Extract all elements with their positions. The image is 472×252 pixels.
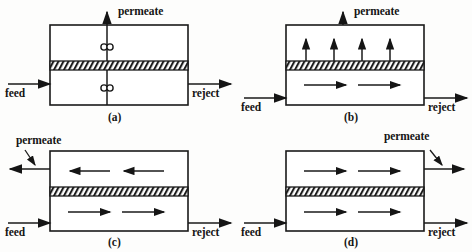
- membrane-layer: [286, 61, 424, 70]
- reject-label: reject: [428, 227, 455, 239]
- permeate-label: permeate: [118, 6, 163, 18]
- membrane-layer: [286, 187, 424, 196]
- membrane-layer: [50, 187, 188, 196]
- permeate-leader-arrow: [25, 150, 35, 165]
- panel-d-co-current: permeate feed reject (d): [236, 126, 472, 252]
- permeate-label: permeate: [16, 135, 61, 147]
- feed-label: feed: [5, 227, 25, 239]
- reject-label: reject: [192, 88, 219, 100]
- reject-label: reject: [192, 227, 219, 239]
- membrane-layer: [50, 61, 188, 70]
- reject-label: reject: [428, 102, 455, 114]
- panel-id-b: (b): [344, 111, 358, 123]
- panel-id-c: (c): [108, 236, 121, 248]
- panel-id-d: (d): [344, 236, 358, 248]
- valve-symbol-lower: [101, 85, 113, 91]
- feed-label: feed: [5, 88, 25, 100]
- panel-a-dead-end: permeate feed reject (a): [0, 0, 236, 126]
- feed-label: feed: [241, 227, 261, 239]
- panel-c-counter-current: permeate feed reject (c): [0, 126, 236, 252]
- valve-symbol-upper: [101, 44, 113, 50]
- feed-label: feed: [241, 102, 261, 114]
- panel-b-cross-flow: permeate feed reject (b): [236, 0, 472, 126]
- permeate-leader-arrow: [430, 150, 442, 165]
- permeate-label: permeate: [384, 131, 429, 143]
- panel-a-drawing: [0, 0, 236, 126]
- panel-id-a: (a): [108, 111, 121, 123]
- permeate-label: permeate: [354, 6, 399, 18]
